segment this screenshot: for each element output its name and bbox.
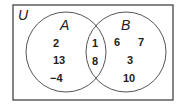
venn-diagram: U A B 2 13 −4 1 8 6 7 3 10	[0, 0, 180, 105]
set-b-label: B	[121, 17, 130, 33]
set-a-label: A	[59, 17, 69, 33]
a-element: 13	[53, 54, 65, 66]
b-element: 3	[127, 54, 133, 66]
intersection-element: 8	[92, 55, 98, 67]
intersection-element: 1	[92, 37, 98, 49]
b-element: 6	[114, 36, 120, 48]
universe-label: U	[18, 7, 29, 23]
a-element: 2	[53, 37, 59, 49]
b-element: 10	[123, 72, 135, 84]
b-element: 7	[138, 36, 144, 48]
a-element: −4	[50, 72, 63, 84]
